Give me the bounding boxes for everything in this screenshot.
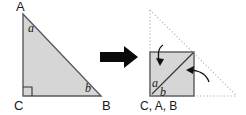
vertex-label-b-upper: B <box>102 98 111 113</box>
folded-angle-label-b: b <box>160 85 166 99</box>
transform-arrow <box>100 46 138 68</box>
merged-vertex-label: C, A, B <box>140 99 177 113</box>
vertex-label-c-upper: C <box>14 98 23 113</box>
right-diagram: a b C, A, B <box>140 10 237 113</box>
right-arrow-icon <box>100 46 138 68</box>
vertex-label-a-upper: A <box>16 0 25 14</box>
figure-container: A B C a b a <box>0 0 246 115</box>
left-diagram: A B C a b <box>14 0 111 113</box>
angle-label-a: a <box>28 21 34 35</box>
folded-angle-label-a: a <box>152 76 158 90</box>
figure-svg: A B C a b a <box>0 0 246 115</box>
angle-label-b: b <box>85 81 91 95</box>
